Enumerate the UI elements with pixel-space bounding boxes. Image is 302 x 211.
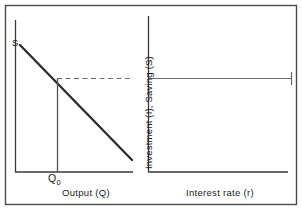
- right-y-axis-label: Investment (I), Saving (S): [144, 56, 154, 169]
- left-x-axis-label: Output (Q): [62, 188, 110, 198]
- q0-subscript: 0: [56, 178, 60, 187]
- q0-tick-label: Q0: [48, 173, 60, 184]
- figure-canvas: S Q0 Output (Q) Interest rate (r) Invest…: [0, 0, 302, 211]
- saving-curve-line: [20, 45, 132, 160]
- q0-base: Q: [48, 172, 56, 184]
- left-panel-axes: [15, 20, 133, 172]
- right-panel-axes: [148, 16, 288, 172]
- saving-curve-label: S: [12, 38, 18, 48]
- right-x-axis-label: Interest rate (r): [186, 188, 254, 198]
